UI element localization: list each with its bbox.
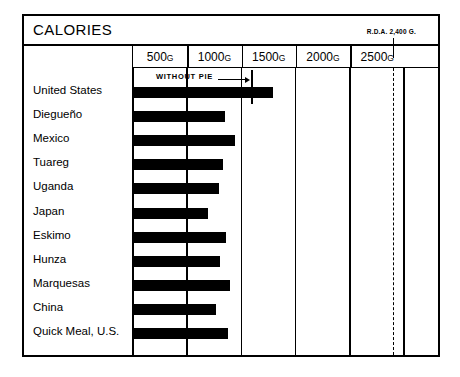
- bar: [132, 183, 219, 194]
- bar: [132, 135, 235, 146]
- bar: [132, 232, 226, 243]
- chart-row: United States: [24, 87, 438, 111]
- rda-reference-label: R.D.A. 2,400 G.: [367, 28, 416, 35]
- category-label: Eskimo: [33, 229, 71, 241]
- chart-row: Eskimo: [24, 232, 438, 256]
- bar: [132, 280, 230, 291]
- without-pie-arrow-line: [218, 79, 246, 80]
- page-title: CALORIES: [33, 21, 112, 38]
- axis-tick-label-2000: 2000G: [296, 46, 350, 68]
- calories-chart: CALORIES R.D.A. 2,400 G. 500G1000G1500G2…: [22, 14, 440, 357]
- bar: [132, 328, 228, 339]
- chart-title-band: CALORIES R.D.A. 2,400 G.: [24, 16, 438, 46]
- bar: [132, 304, 216, 315]
- category-label: Quick Meal, U.S.: [33, 325, 119, 337]
- chart-row: Quick Meal, U.S.: [24, 328, 438, 352]
- chart-row: Japan: [24, 208, 438, 232]
- plot-area: United StatesDiegueñoMexicoTuaregUgandaJ…: [24, 68, 438, 355]
- chart-row: Tuareg: [24, 159, 438, 183]
- bar: [132, 159, 223, 170]
- axis-unit: G: [279, 53, 286, 63]
- bar: [132, 256, 220, 267]
- without-pie-annotation-label: WITHOUT PIE: [156, 72, 213, 81]
- chart-row: Marquesas: [24, 280, 438, 304]
- category-label: China: [33, 301, 63, 313]
- rda-reference-tick: [393, 38, 394, 58]
- without-pie-arrow-head: [245, 77, 250, 83]
- axis-tick-label-1000: 1000G: [187, 46, 241, 68]
- category-label: Diegueño: [33, 108, 82, 120]
- bar: [132, 111, 225, 122]
- category-label: Hunza: [33, 253, 66, 265]
- category-label: Marquesas: [33, 277, 90, 289]
- chart-row: Diegueño: [24, 111, 438, 135]
- axis-unit: G: [224, 53, 231, 63]
- axis-tick-label-500: 500G: [133, 46, 187, 68]
- category-label: United States: [33, 84, 102, 96]
- without-pie-tick-mark: [251, 70, 252, 104]
- category-label: Uganda: [33, 180, 73, 192]
- chart-row: Uganda: [24, 183, 438, 207]
- axis-unit: G: [333, 53, 340, 63]
- bar: [132, 208, 208, 219]
- axis-unit: G: [167, 53, 174, 63]
- axis-tick-label-1500: 1500G: [242, 46, 296, 68]
- category-label: Japan: [33, 205, 64, 217]
- axis-tick-label-2500: 2500G: [350, 46, 404, 68]
- chart-row: Mexico: [24, 135, 438, 159]
- category-label: Mexico: [33, 132, 69, 144]
- category-label: Tuareg: [33, 156, 69, 168]
